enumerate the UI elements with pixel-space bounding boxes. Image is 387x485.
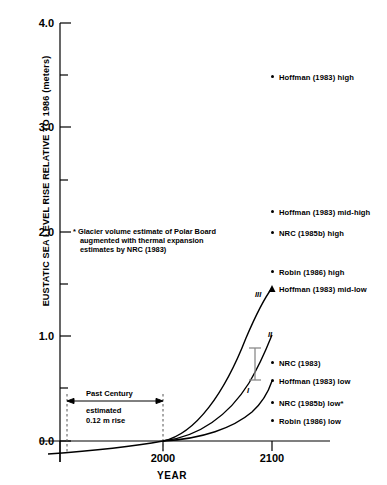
footnote-line-1: * Glacier volume estimate of Polar Board (73, 227, 216, 236)
y-tick-label-1: 1.0 (39, 330, 54, 342)
curve-label-III: III (255, 290, 261, 299)
x-axis-title: YEAR (157, 470, 187, 481)
footnote-line-2: augmented with thermal expansion (80, 236, 204, 245)
y-tick-label-3: 3.0 (39, 121, 54, 133)
sea-level-rise-chart: EUSTATIC SEA LEVEL RISE RELATIVE TO 1986… (0, 0, 387, 485)
x-tick-label-2000: 2000 (151, 452, 175, 464)
curve-past-century (48, 441, 163, 454)
y-axis-major-ticks (60, 23, 71, 441)
label-nrc-1983: NRC (1983) (279, 359, 321, 368)
label-hoffman-1983-low: Hoffman (1983) low (279, 377, 350, 386)
y-tick-label-2: 2.0 (39, 226, 54, 238)
past-century-line-2: estimated (86, 406, 121, 416)
mid-low-arrow-marker (269, 285, 276, 292)
curve-I (163, 381, 272, 441)
y-tick-label-0: 0.0 (39, 435, 54, 447)
label-robin-1986-high: Robin (1986) high (279, 268, 344, 277)
past-century-line-3: 0.12 m rise (86, 416, 125, 426)
footnote-line-3: estimates by NRC (1983) (80, 245, 166, 254)
label-hoffman-1983-mid-high: Hoffman (1983) mid-high (279, 208, 370, 217)
label-hoffman-1983-high: Hoffman (1983) high (279, 73, 354, 82)
label-hoffman-1983-mid-low: Hoffman (1983) mid-low (279, 285, 367, 294)
past-century-arrow (67, 398, 163, 403)
label-nrc-1985b-high: NRC (1985b) high (279, 229, 344, 238)
x-tick-label-2100: 2100 (260, 452, 284, 464)
label-nrc-1985b-low: NRC (1985b) low* (279, 399, 343, 408)
curve-label-I: I (247, 386, 249, 395)
past-century-line-1: Past Century (86, 389, 133, 399)
y-tick-label-4: 4.0 (39, 17, 54, 29)
curve-label-II: II (268, 330, 272, 339)
label-robin-1986-low: Robin (1986) low (279, 417, 341, 426)
